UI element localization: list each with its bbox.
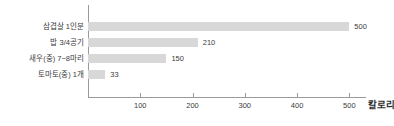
x-axis-tick-mark <box>245 93 246 98</box>
bar-row: 210 <box>88 38 365 47</box>
category-label: 새우(중) 7~8마리 <box>0 54 84 63</box>
category-label: 삼겹살 1인분 <box>0 22 84 31</box>
bar <box>88 70 105 79</box>
calorie-bar-chart: 삼겹살 1인분밥 3/4공기새우(중) 7~8마리토마토(중) 1개 50021… <box>0 0 394 126</box>
x-axis-tick-label: 400 <box>291 101 304 111</box>
plot-area: 50021015033 <box>88 5 365 101</box>
x-axis-tick-mark <box>193 93 194 98</box>
x-axis-tick-mark <box>349 93 350 98</box>
bar-value-label: 210 <box>203 38 216 48</box>
x-axis-tick-label: 500 <box>343 101 356 111</box>
bar-row: 500 <box>88 22 365 31</box>
category-label: 토마토(중) 1개 <box>0 70 84 79</box>
x-axis-title: 칼로리 <box>368 99 394 111</box>
bar-value-label: 150 <box>171 54 184 64</box>
bar-row: 150 <box>88 54 365 63</box>
category-label: 밥 3/4공기 <box>0 38 84 47</box>
bar-value-label: 33 <box>110 70 118 80</box>
x-axis-tick-mark <box>140 93 141 98</box>
bar-value-label: 500 <box>354 22 367 32</box>
x-axis-tick-mark <box>297 93 298 98</box>
category-axis-labels: 삼겹살 1인분밥 3/4공기새우(중) 7~8마리토마토(중) 1개 <box>0 22 84 92</box>
x-axis-tick-label: 100 <box>134 101 147 111</box>
bar <box>88 38 198 47</box>
bar-row: 33 <box>88 70 365 79</box>
x-axis-tick-label: 200 <box>186 101 199 111</box>
bar <box>88 22 349 31</box>
bar <box>88 54 166 63</box>
x-axis-tick-label: 300 <box>239 101 252 111</box>
